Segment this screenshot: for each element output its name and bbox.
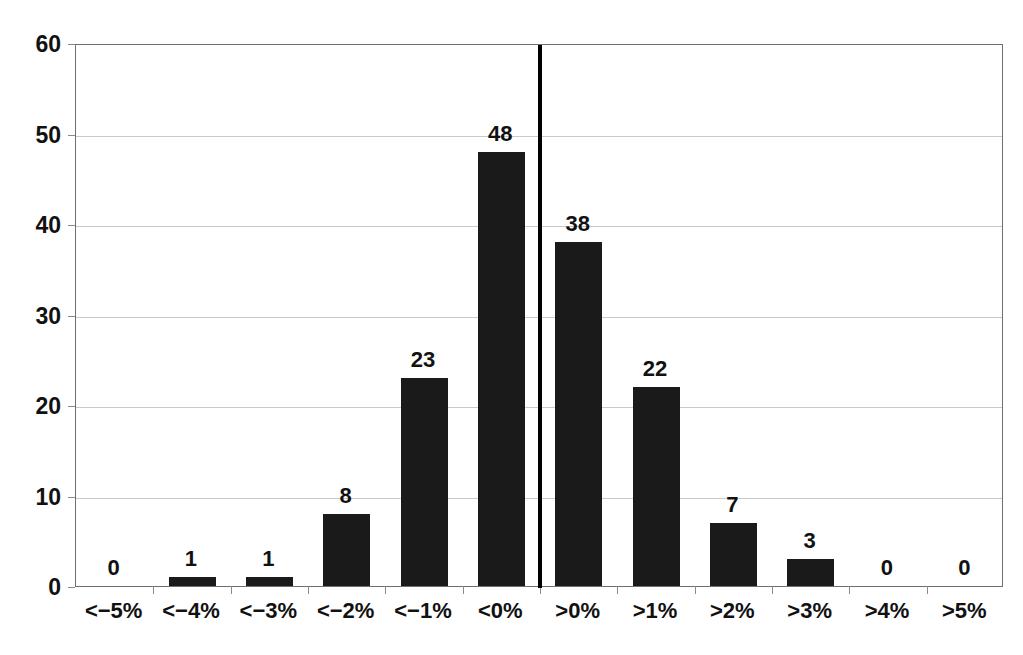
bar-value-label: 3 — [771, 530, 848, 552]
bar-value-label: 0 — [848, 557, 925, 579]
y-axis-tick-mark — [68, 497, 75, 498]
x-axis-tick-mark — [231, 586, 232, 594]
x-axis-category-label: <−3% — [230, 600, 307, 622]
x-axis-category-label: >1% — [616, 600, 693, 622]
x-axis-category-label: >4% — [848, 600, 925, 622]
bar — [478, 152, 525, 586]
x-axis-tick-mark — [463, 586, 464, 594]
y-axis-tick-mark — [68, 587, 75, 588]
bar — [169, 577, 216, 586]
y-axis-tick-label: 20 — [0, 395, 61, 418]
y-axis-tick-label: 40 — [0, 214, 61, 237]
bar-value-label: 1 — [230, 548, 307, 570]
bar-value-label: 1 — [152, 548, 229, 570]
bar — [555, 242, 602, 586]
bar-value-label: 48 — [462, 123, 539, 145]
x-axis-category-label: <0% — [462, 600, 539, 622]
y-axis-tick-label: 60 — [0, 33, 61, 56]
y-axis-tick-label: 30 — [0, 305, 61, 328]
y-axis-tick-label: 50 — [0, 124, 61, 147]
plot-area — [75, 44, 1003, 587]
y-axis-tick-label: 0 — [0, 576, 61, 599]
x-axis-category-label: <−5% — [75, 600, 152, 622]
x-axis-category-label: >3% — [771, 600, 848, 622]
bar — [633, 387, 680, 586]
x-axis-tick-mark — [385, 586, 386, 594]
x-axis-tick-mark — [849, 586, 850, 594]
bar-chart: 0102030405060 0118234838227300 <−5%<−4%<… — [0, 0, 1023, 655]
bar-value-label: 0 — [75, 557, 152, 579]
y-axis-tick-mark — [68, 316, 75, 317]
bar — [246, 577, 293, 586]
x-axis-tick-mark — [617, 586, 618, 594]
x-axis-category-label: >5% — [926, 600, 1003, 622]
y-axis-tick-mark — [68, 135, 75, 136]
bar-value-label: 0 — [926, 557, 1003, 579]
x-axis-tick-mark — [772, 586, 773, 594]
y-axis-tick-mark — [68, 406, 75, 407]
y-axis-tick-label: 10 — [0, 486, 61, 509]
bar-value-label: 8 — [307, 485, 384, 507]
y-axis-tick-mark — [68, 44, 75, 45]
bar — [787, 559, 834, 586]
bar — [323, 514, 370, 586]
x-axis-category-label: >0% — [539, 600, 616, 622]
x-axis-category-label: >2% — [694, 600, 771, 622]
y-axis-tick-mark — [68, 225, 75, 226]
x-axis-category-label: <−2% — [307, 600, 384, 622]
x-axis-tick-mark — [927, 586, 928, 594]
bar-value-label: 23 — [384, 349, 461, 371]
bar — [401, 378, 448, 586]
x-axis-category-label: <−4% — [152, 600, 229, 622]
x-axis-tick-mark — [308, 586, 309, 594]
x-axis-tick-mark — [695, 586, 696, 594]
x-axis-category-label: <−1% — [384, 600, 461, 622]
bar-value-label: 38 — [539, 213, 616, 235]
bar-value-label: 7 — [694, 494, 771, 516]
bar — [710, 523, 757, 586]
x-axis-tick-mark — [153, 586, 154, 594]
bar-value-label: 22 — [616, 358, 693, 380]
